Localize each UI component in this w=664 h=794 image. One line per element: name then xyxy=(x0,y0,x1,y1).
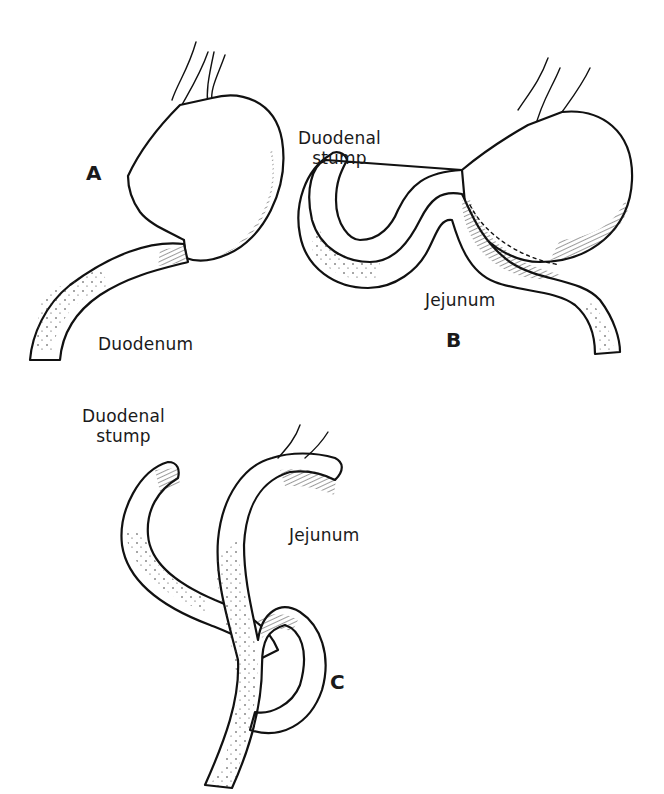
panel-b-letter: B xyxy=(446,330,461,350)
panel-c-letter: C xyxy=(330,672,345,692)
panel-a-duodenum-label: Duodenum xyxy=(98,334,193,354)
panel-c-jejunum-label: Jejunum xyxy=(289,525,359,545)
panel-c-duodenal-stump-label: Duodenal stump xyxy=(82,406,165,446)
panel-b-duodenal-stump-label: Duodenal stump xyxy=(298,128,381,168)
panel-a-letter: A xyxy=(86,163,102,183)
panel-b-jejunum-label: Jejunum xyxy=(425,290,495,310)
panel-a-drawing xyxy=(30,42,283,360)
panel-c-drawing xyxy=(122,425,342,788)
